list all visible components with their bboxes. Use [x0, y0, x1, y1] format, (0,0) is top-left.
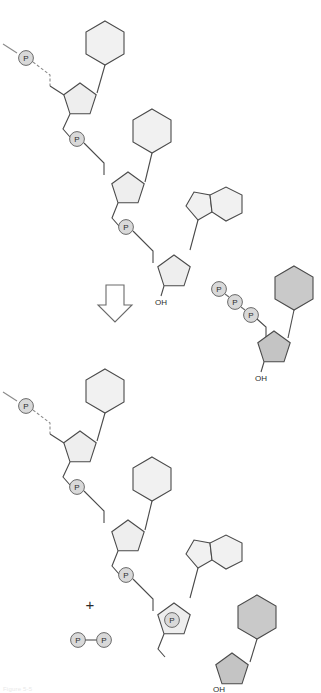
bond	[133, 579, 153, 611]
glycosidic-bond	[97, 413, 105, 441]
phosphate-group-beta: P	[228, 295, 243, 310]
bond	[112, 203, 119, 226]
phosphate-group: P	[70, 480, 85, 495]
chain-continuation-line	[3, 392, 17, 401]
phosphate-label: P	[248, 311, 253, 320]
glycosidic-bond	[190, 220, 198, 250]
phosphate-group: P	[70, 132, 85, 147]
phosphate-group: P	[119, 568, 134, 583]
phosphate-group-gamma: P	[244, 308, 259, 323]
bond	[50, 434, 64, 443]
phosphate-group-alpha: P	[212, 282, 227, 297]
sugar-ring	[64, 431, 96, 462]
phosphate-label: P	[101, 636, 106, 645]
phosphate-group: P	[19, 399, 34, 414]
phosphate-label: P	[23, 402, 28, 411]
glycosidic-bond	[145, 501, 152, 530]
hydroxyl-label: OH	[255, 374, 267, 383]
bond	[63, 114, 70, 137]
incoming-nucleotide-triphosphate: P P P OH	[212, 266, 313, 383]
bond	[63, 462, 70, 485]
phosphate-label: P	[169, 616, 174, 625]
phosphate-group: P	[19, 51, 34, 66]
bond	[112, 551, 119, 574]
base-pyrimidine-shaded-new	[238, 595, 276, 639]
bond	[225, 294, 229, 297]
base-pyrimidine	[86, 21, 124, 65]
sugar-ring-shaded-new	[216, 653, 248, 684]
glycosidic-bond	[190, 568, 198, 598]
phosphate-label: P	[216, 285, 221, 294]
bond	[158, 634, 165, 657]
glycosidic-bond	[250, 639, 257, 662]
base-pyrimidine	[133, 457, 171, 501]
base-pyrimidine	[133, 109, 171, 153]
bond	[241, 307, 245, 310]
phosphate-group-new-bond: P	[165, 613, 180, 628]
base-pyrimidine	[86, 369, 124, 413]
sugar-ring	[112, 520, 144, 551]
bond	[133, 231, 153, 263]
bond-to-hydroxyl	[261, 362, 264, 372]
phosphate-group: P	[119, 220, 134, 235]
chain-continuation-line	[3, 44, 17, 53]
bond	[257, 319, 266, 337]
sugar-ring	[64, 83, 96, 114]
glycosidic-bond	[97, 65, 105, 93]
product-extended-strand: P P P	[3, 369, 276, 693]
figure-canvas: P P P	[0, 0, 321, 693]
base-pyrimidine-shaded	[275, 266, 313, 310]
glycosidic-bond	[288, 310, 294, 338]
figure-caption: Figure 5-5	[3, 686, 32, 692]
primer-strand: P P P	[3, 21, 242, 307]
phosphate-label: P	[23, 54, 28, 63]
phosphate-label: P	[74, 483, 79, 492]
bond-dashed	[33, 410, 50, 434]
reaction-diagram: P P P	[0, 0, 321, 693]
base-purine	[186, 535, 242, 569]
phosphate-label: P	[75, 636, 80, 645]
hydroxyl-label: OH	[155, 298, 167, 307]
plus-sign: +	[86, 596, 95, 613]
bond-dashed	[33, 62, 50, 86]
phosphate-label: P	[123, 223, 128, 232]
sugar-ring-3-prime	[158, 255, 190, 286]
sugar-ring	[112, 172, 144, 203]
bond-to-hydroxyl	[161, 286, 164, 296]
phosphate-label: P	[123, 571, 128, 580]
reaction-arrow	[98, 285, 132, 322]
base-purine	[186, 187, 242, 221]
hydroxyl-label: OH	[213, 685, 225, 693]
bond	[84, 143, 104, 175]
pyrophosphate: P P	[71, 633, 112, 648]
phosphate-label: P	[232, 298, 237, 307]
phosphate-label: P	[74, 135, 79, 144]
glycosidic-bond	[145, 153, 152, 182]
bond	[84, 491, 104, 523]
sugar-ring-shaded	[258, 331, 290, 362]
bond	[50, 86, 64, 95]
